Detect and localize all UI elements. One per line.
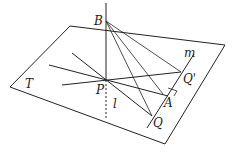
line-B-Qprime — [106, 21, 181, 72]
geometry-figure — [0, 0, 234, 152]
line-P-Qprime — [62, 72, 181, 85]
label-A: A — [164, 97, 173, 109]
label-P: P — [96, 84, 104, 96]
label-T: T — [25, 78, 33, 90]
diagram: B m Q' T P A l Q — [0, 0, 234, 152]
label-Q: Q — [153, 117, 163, 129]
line-P-Q — [72, 53, 152, 116]
line-B-A — [106, 21, 163, 94]
label-B: B — [94, 15, 103, 27]
label-l: l — [113, 98, 117, 110]
line-P-A — [49, 65, 168, 96]
label-m: m — [184, 47, 195, 59]
label-Qprime: Q' — [183, 73, 196, 85]
